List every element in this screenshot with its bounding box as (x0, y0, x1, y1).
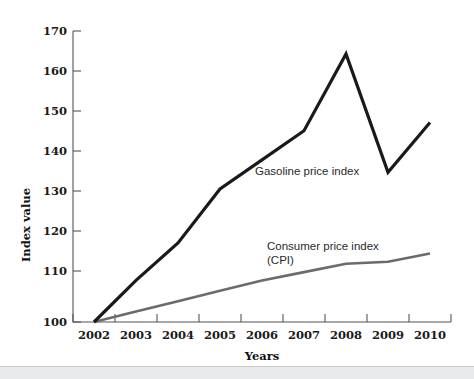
series-label-cpi-line2: (CPI) (267, 254, 294, 266)
y-axis-ticks (73, 31, 81, 322)
x-tick-label-2006: 2006 (246, 328, 278, 342)
x-tick-label-2002: 2002 (78, 328, 110, 342)
series-label-gasoline: Gasoline price index (255, 165, 359, 177)
y-tick-label-150: 150 (43, 104, 67, 118)
x-tick-label-2010: 2010 (414, 328, 446, 342)
y-tick-label-140: 140 (43, 144, 67, 158)
page-bottom-strip (0, 366, 474, 379)
x-tick-label-2003: 2003 (120, 328, 152, 342)
x-tick-label-2008: 2008 (330, 328, 362, 342)
series-line-consumer-price-index (94, 253, 430, 322)
chart-container: 170 160 150 140 130 120 110 100 Index va… (0, 0, 474, 379)
line-chart-plot: 170 160 150 140 130 120 110 100 Index va… (0, 0, 474, 379)
y-tick-label-110: 110 (43, 264, 67, 278)
y-tick-label-160: 160 (43, 64, 67, 78)
x-axis-title: Years (244, 349, 280, 363)
x-axis-ticks (73, 314, 451, 322)
y-tick-label-120: 120 (43, 224, 67, 238)
x-tick-label-2007: 2007 (288, 328, 320, 342)
series-line-gasoline-price-index (94, 54, 430, 322)
x-tick-label-2005: 2005 (204, 328, 236, 342)
x-tick-label-2009: 2009 (372, 328, 404, 342)
y-axis-title: Index value (19, 188, 33, 262)
series-label-cpi-line1: Consumer price index (267, 240, 379, 252)
x-tick-label-2004: 2004 (162, 328, 194, 342)
y-tick-label-100: 100 (43, 315, 67, 329)
y-tick-label-170: 170 (43, 24, 67, 38)
y-tick-label-130: 130 (43, 184, 67, 198)
x-axis-tick-labels: 200220032004200520062007200820092010 (78, 328, 446, 342)
